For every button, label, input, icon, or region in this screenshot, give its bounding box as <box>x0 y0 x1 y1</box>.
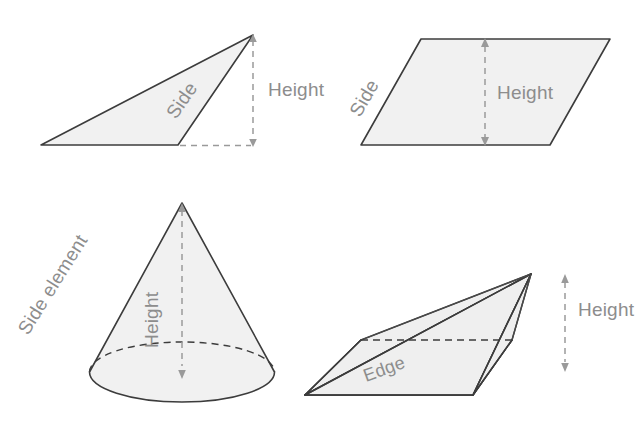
triangle-height-label: Height <box>268 79 325 100</box>
geometry-figure: Height Side Height Side Height Side e <box>0 0 642 424</box>
prism-panel: Height Edge <box>305 274 635 395</box>
parallelogram-side-label: Side <box>345 76 383 120</box>
cone-height-label: Height <box>141 291 162 348</box>
cone-panel: Height Side element <box>14 203 275 402</box>
prism-height-arrow-up <box>561 274 569 283</box>
parallelogram-panel: Height Side <box>345 38 610 146</box>
prism-height-arrow-down <box>561 363 569 372</box>
cone-side-element-label: Side element <box>14 230 92 338</box>
parallelogram-height-label: Height <box>497 82 554 103</box>
triangle-shape <box>41 35 253 145</box>
prism-height-label: Height <box>578 299 635 320</box>
triangle-panel: Height Side <box>41 34 325 147</box>
figure-canvas: Height Side Height Side Height Side e <box>0 0 642 424</box>
